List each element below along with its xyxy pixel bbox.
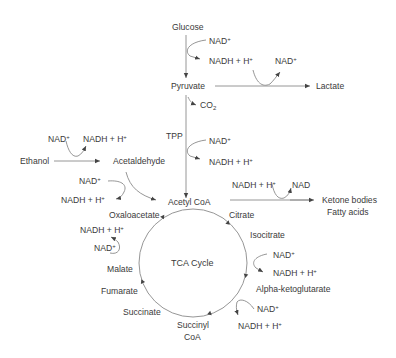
- diagram-arrows: [0, 0, 396, 358]
- cofactor-nad-pdh: NAD+: [209, 136, 231, 146]
- node-acetyl-coa: Acetyl CoA: [168, 197, 211, 207]
- arrow-acetaldehyde-acetylcoa: [126, 172, 156, 200]
- cofactor-nadh-adh: NADH + H+: [83, 134, 127, 144]
- cofactor-nad-idh: NAD+: [273, 250, 295, 260]
- cofactor-nadh-ketone: NADH + H+: [232, 180, 276, 190]
- node-ethanol: Ethanol: [20, 156, 49, 166]
- metabolism-diagram: Glucose NAD+ NADH + H+ NAD+ Pyruvate Lac…: [0, 0, 396, 358]
- node-ketone-bodies: Ketone bodies: [322, 195, 377, 205]
- node-glucose: Glucose: [172, 22, 204, 32]
- curve-lactate-nad: [253, 70, 280, 85]
- node-fatty-acids: Fatty acids: [327, 207, 369, 217]
- node-pyruvate: Pyruvate: [171, 81, 205, 91]
- cofactor-nad-lactate: NAD+: [275, 56, 297, 66]
- curve-co2: [188, 97, 196, 105]
- cofactor-nad-adh: NAD+: [48, 134, 70, 144]
- cofactor-nadh-glycolysis: NADH + H+: [209, 56, 253, 66]
- node-oxaloacetate: Oxaloacetate: [109, 210, 160, 220]
- curve-aldh-nad: [108, 181, 125, 199]
- node-citrate: Citrate: [229, 210, 254, 220]
- node-isocitrate: Isocitrate: [250, 230, 285, 240]
- cofactor-nadh-mdh: NADH + H+: [80, 225, 124, 235]
- curve-glycolysis-nad: [187, 40, 206, 59]
- node-acetaldehyde: Acetaldehyde: [113, 156, 165, 166]
- cofactor-nadh-idh: NADH + H+: [273, 268, 317, 278]
- cofactor-tpp: TPP: [166, 131, 183, 141]
- cofactor-nad-aldh: NAD+: [79, 176, 101, 186]
- node-succinyl-coa-line1: Succinyl: [177, 320, 209, 330]
- cofactor-co2: CO2: [200, 100, 216, 110]
- node-alpha-ketoglutarate: Alpha-ketoglutarate: [256, 284, 331, 294]
- curve-akgdh-nad: [236, 300, 254, 315]
- cofactor-nadh-aldh: NADH + H+: [61, 195, 105, 205]
- node-malate: Malate: [107, 264, 133, 274]
- curve-idh-nad: [254, 254, 267, 272]
- cofactor-nad-akgdh: NAD+: [257, 304, 279, 314]
- tca-cycle-label: TCA Cycle: [171, 258, 214, 268]
- curve-pdh-nad: [187, 140, 206, 159]
- node-succinate: Succinate: [123, 307, 161, 317]
- node-lactate: Lactate: [316, 81, 344, 91]
- cofactor-nad-mdh: NAD+: [94, 243, 116, 253]
- cofactor-nad-ketone: NAD: [292, 180, 310, 190]
- cofactor-nad-glycolysis: NAD+: [209, 36, 231, 46]
- cofactor-nadh-pdh: NADH + H+: [209, 157, 253, 167]
- node-fumarate: Fumarate: [101, 286, 138, 296]
- node-succinyl-coa-line2: CoA: [184, 332, 201, 342]
- cofactor-nadh-akgdh: NADH + H+: [238, 321, 282, 331]
